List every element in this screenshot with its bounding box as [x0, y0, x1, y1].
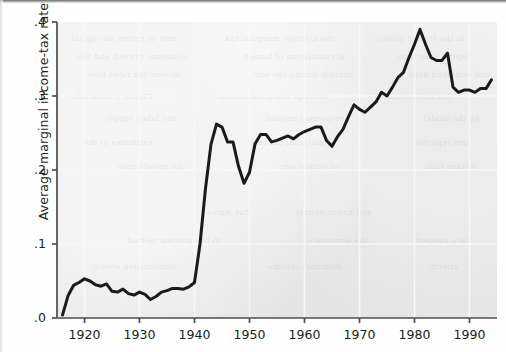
- x-tick-label: 1930: [117, 327, 163, 342]
- x-tick-label: 1950: [227, 327, 273, 342]
- y-tick-label: .0: [24, 310, 46, 325]
- plot-area: rate of return on capitalthe average mar…: [57, 22, 497, 318]
- x-tick-label: 1980: [392, 327, 438, 342]
- x-tick-label: 1970: [337, 327, 383, 342]
- x-tick-label: 1940: [172, 327, 218, 342]
- scan-top-edge: [0, 0, 506, 3]
- y-tick-label: .4: [24, 14, 46, 29]
- y-tick-label: .2: [24, 162, 46, 177]
- x-tick-label: 1920: [62, 327, 108, 342]
- y-axis-label: Average marginal income-tax rate: [36, 0, 51, 237]
- data-line-layer: [57, 22, 497, 318]
- figure-canvas: Average marginal income-tax rate rate of…: [0, 0, 506, 352]
- scan-left-edge: [0, 0, 3, 352]
- y-tick-label: .1: [24, 236, 46, 251]
- x-tick-label: 1990: [447, 327, 493, 342]
- x-tick-label: 1960: [282, 327, 328, 342]
- data-line-average-marginal-income-tax-rate: [63, 29, 492, 315]
- y-tick-label: .3: [24, 88, 46, 103]
